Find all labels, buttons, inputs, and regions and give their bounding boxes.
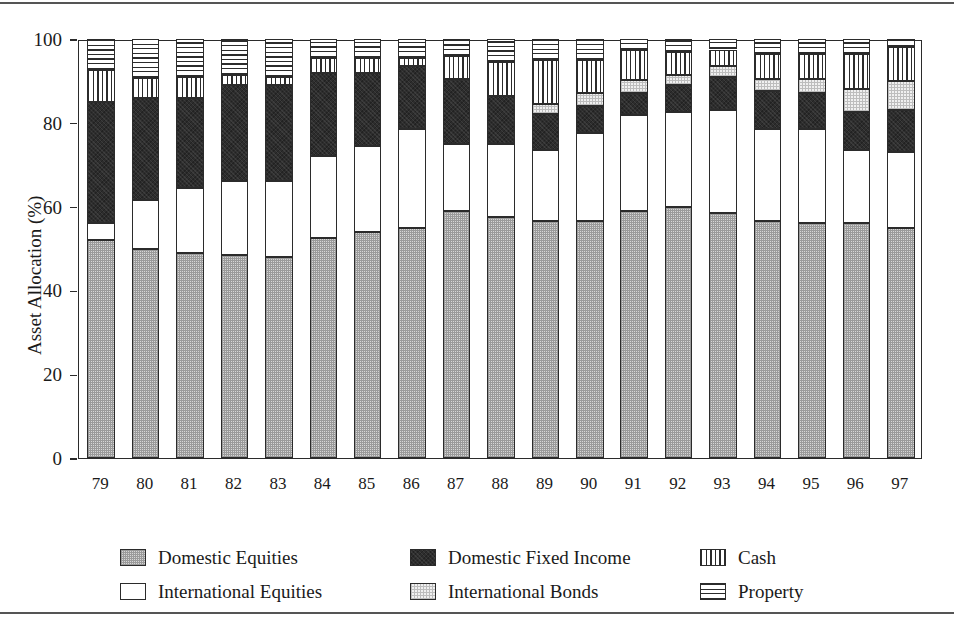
bar-segment-domestic-equities[interactable] (532, 221, 560, 458)
bar-97[interactable] (887, 41, 915, 458)
bar-segment-property[interactable] (310, 39, 338, 58)
bar-segment-property[interactable] (620, 39, 648, 50)
bar-segment-domestic-equities[interactable] (798, 223, 826, 458)
bar-segment-international-bonds[interactable] (754, 79, 782, 92)
bar-segment-international-equities[interactable] (665, 112, 693, 206)
bar-segment-domestic-fixed-income[interactable] (754, 91, 782, 129)
bar-83[interactable] (265, 41, 293, 458)
bar-segment-cash[interactable] (354, 58, 382, 72)
bar-segment-cash[interactable] (754, 54, 782, 79)
bar-93[interactable] (709, 41, 737, 458)
bar-segment-domestic-equities[interactable] (620, 211, 648, 458)
bar-84[interactable] (310, 41, 338, 458)
bar-segment-domestic-equities[interactable] (709, 213, 737, 458)
bar-segment-international-equities[interactable] (487, 144, 515, 217)
bar-segment-international-equities[interactable] (176, 188, 204, 253)
bar-segment-international-equities[interactable] (443, 144, 471, 211)
bar-segment-domestic-equities[interactable] (443, 211, 471, 458)
bar-segment-domestic-fixed-income[interactable] (221, 85, 249, 181)
bar-95[interactable] (798, 41, 826, 458)
bar-segment-cash[interactable] (310, 58, 338, 73)
bar-segment-international-equities[interactable] (310, 156, 338, 238)
bar-segment-domestic-equities[interactable] (354, 232, 382, 458)
bar-segment-domestic-fixed-income[interactable] (87, 102, 115, 224)
legend-item-international-bonds[interactable]: International Bonds (410, 582, 598, 601)
bar-segment-property[interactable] (443, 39, 471, 56)
bar-88[interactable] (487, 41, 515, 458)
legend-item-international-equities[interactable]: International Equities (120, 582, 322, 601)
bar-segment-international-bonds[interactable] (532, 104, 560, 114)
bar-segment-domestic-fixed-income[interactable] (398, 66, 426, 129)
bar-80[interactable] (132, 41, 160, 458)
bar-segment-international-equities[interactable] (132, 200, 160, 248)
bar-segment-domestic-equities[interactable] (132, 249, 160, 459)
bar-segment-domestic-fixed-income[interactable] (665, 85, 693, 112)
bar-79[interactable] (87, 41, 115, 458)
bar-segment-property[interactable] (354, 39, 382, 58)
bar-segment-property[interactable] (887, 39, 915, 47)
bar-segment-cash[interactable] (176, 77, 204, 98)
bar-89[interactable] (532, 41, 560, 458)
bar-segment-domestic-equities[interactable] (754, 221, 782, 458)
bar-segment-domestic-equities[interactable] (265, 257, 293, 458)
bar-segment-domestic-equities[interactable] (576, 221, 604, 458)
bar-segment-domestic-fixed-income[interactable] (443, 79, 471, 144)
bar-segment-cash[interactable] (265, 77, 293, 85)
bar-segment-international-equities[interactable] (843, 150, 871, 223)
bar-segment-cash[interactable] (620, 50, 648, 80)
bar-segment-domestic-equities[interactable] (887, 228, 915, 458)
bar-segment-domestic-fixed-income[interactable] (532, 114, 560, 150)
bar-segment-property[interactable] (576, 39, 604, 60)
bar-segment-domestic-equities[interactable] (221, 255, 249, 458)
bar-segment-cash[interactable] (798, 54, 826, 79)
bar-segment-international-bonds[interactable] (843, 89, 871, 112)
bar-segment-international-equities[interactable] (798, 129, 826, 223)
bar-segment-property[interactable] (265, 39, 293, 77)
bar-segment-international-equities[interactable] (354, 146, 382, 232)
bar-segment-domestic-fixed-income[interactable] (887, 110, 915, 152)
legend-item-domestic-equities[interactable]: Domestic Equities (120, 548, 298, 567)
bar-segment-domestic-fixed-income[interactable] (798, 93, 826, 129)
bar-segment-domestic-equities[interactable] (87, 240, 115, 458)
bar-segment-property[interactable] (665, 39, 693, 52)
bar-segment-cash[interactable] (665, 52, 693, 75)
bar-segment-property[interactable] (176, 39, 204, 77)
bar-segment-cash[interactable] (887, 47, 915, 81)
bar-segment-domestic-fixed-income[interactable] (132, 98, 160, 201)
legend-item-domestic-fixed-income[interactable]: Domestic Fixed Income (410, 548, 631, 567)
bar-91[interactable] (620, 41, 648, 458)
bar-segment-property[interactable] (132, 39, 160, 78)
bar-segment-domestic-equities[interactable] (310, 238, 338, 458)
bar-segment-cash[interactable] (709, 50, 737, 67)
bar-segment-domestic-fixed-income[interactable] (354, 73, 382, 146)
bar-segment-domestic-fixed-income[interactable] (265, 85, 293, 181)
bar-segment-domestic-fixed-income[interactable] (576, 106, 604, 133)
bar-segment-property[interactable] (754, 39, 782, 54)
bar-segment-cash[interactable] (443, 56, 471, 79)
bar-segment-cash[interactable] (576, 60, 604, 94)
bar-segment-international-bonds[interactable] (620, 80, 648, 93)
bar-82[interactable] (221, 41, 249, 458)
bar-segment-property[interactable] (87, 39, 115, 70)
bar-segment-international-bonds[interactable] (576, 93, 604, 106)
bar-segment-domestic-equities[interactable] (843, 223, 871, 458)
bar-segment-property[interactable] (709, 39, 737, 49)
bar-segment-international-equities[interactable] (221, 181, 249, 254)
bar-segment-international-equities[interactable] (265, 181, 293, 256)
bar-segment-cash[interactable] (532, 60, 560, 104)
bar-segment-domestic-fixed-income[interactable] (310, 73, 338, 157)
bar-segment-international-bonds[interactable] (798, 79, 826, 94)
bar-92[interactable] (665, 41, 693, 458)
legend-item-property[interactable]: Property (700, 582, 803, 601)
bar-segment-international-equities[interactable] (754, 129, 782, 221)
bar-96[interactable] (843, 41, 871, 458)
bar-segment-domestic-equities[interactable] (487, 217, 515, 458)
bar-segment-international-equities[interactable] (709, 110, 737, 213)
bar-segment-domestic-equities[interactable] (176, 253, 204, 458)
bar-segment-cash[interactable] (487, 62, 515, 96)
bar-segment-domestic-fixed-income[interactable] (709, 77, 737, 111)
bar-segment-international-equities[interactable] (398, 129, 426, 227)
bar-segment-property[interactable] (487, 39, 515, 62)
bar-segment-international-bonds[interactable] (887, 81, 915, 110)
bar-segment-cash[interactable] (87, 70, 115, 102)
